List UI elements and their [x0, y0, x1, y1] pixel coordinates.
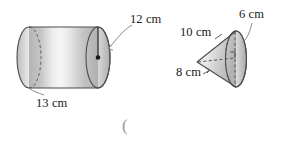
- cylinder-figure: [17, 25, 132, 95]
- cylinder-length-leader: [30, 89, 44, 95]
- cone-radius-label: 6 cm: [239, 8, 264, 21]
- cylinder-center-dot: [96, 55, 101, 60]
- cylinder-radius-label: 12 cm: [130, 13, 161, 26]
- cone-slant-lower-label: 8 cm: [176, 66, 201, 79]
- cylinder-length-label: 13 cm: [36, 97, 67, 110]
- cylinder-radius-leader: [109, 25, 132, 48]
- cone-slant-upper-leader: [215, 34, 222, 39]
- cone-slant-upper-label: 10 cm: [180, 26, 211, 39]
- cone-body-overlay: [197, 31, 236, 87]
- cylinder-body-overlay: [29, 27, 98, 88]
- open-paren-annotation: (: [122, 117, 128, 134]
